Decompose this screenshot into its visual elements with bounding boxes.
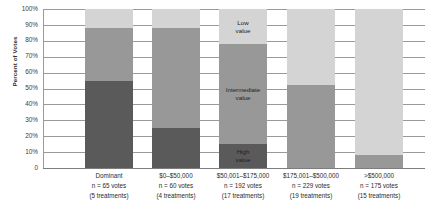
- bar-segment-intermediate-value[interactable]: Intermediate value: [219, 44, 267, 144]
- bar-segment-intermediate-value[interactable]: [287, 85, 335, 168]
- segment-annotation: High value: [236, 148, 251, 164]
- y-axis-tick-labels: 100%90%80%70%60%50%40%30%20%10%0: [0, 9, 38, 168]
- bar-segment-low-value[interactable]: [85, 9, 133, 28]
- bar-segment-high-value[interactable]: High value: [219, 144, 267, 168]
- y-tick-label: 70%: [4, 53, 38, 59]
- bar-segment-intermediate-value[interactable]: [355, 155, 403, 168]
- bar-segment-low-value[interactable]: [152, 9, 200, 28]
- treatments-count: (15 treatments): [334, 191, 424, 201]
- bar-segment-intermediate-value[interactable]: [85, 28, 133, 80]
- segment-annotation: Intermediate value: [226, 86, 260, 102]
- gridline: [43, 168, 425, 169]
- x-axis-category-labels: Dominantn = 65 votes(5 treatments)$0–$50…: [43, 171, 425, 211]
- y-tick-label: 10%: [4, 149, 38, 155]
- bar-3[interactable]: High valueIntermediate valueLow value: [219, 9, 267, 168]
- bar-1[interactable]: [85, 9, 133, 168]
- segment-annotation: Low value: [236, 19, 251, 35]
- bar-segment-high-value[interactable]: [85, 81, 133, 168]
- bar-segment-low-value[interactable]: [287, 9, 335, 85]
- stacked-bar-chart: Percent of Votes 100%90%80%70%60%50%40%3…: [0, 0, 429, 212]
- y-tick-label: 60%: [4, 69, 38, 75]
- y-tick-label: 50%: [4, 85, 38, 91]
- bar-5[interactable]: [355, 9, 403, 168]
- bar-segment-low-value[interactable]: Low value: [219, 9, 267, 44]
- bar-4[interactable]: [287, 9, 335, 168]
- bar-segment-low-value[interactable]: [355, 9, 403, 155]
- bar-2[interactable]: [152, 9, 200, 168]
- y-tick-label: 40%: [4, 101, 38, 107]
- y-tick-label: 20%: [4, 133, 38, 139]
- category-name: >$500,000: [334, 171, 424, 181]
- y-tick-label: 100%: [4, 6, 38, 12]
- bar-segment-high-value[interactable]: [152, 128, 200, 168]
- y-tick-label: 90%: [4, 22, 38, 28]
- y-tick-label: 0: [4, 165, 38, 171]
- y-tick-label: 80%: [4, 37, 38, 43]
- x-label-5: >$500,000n = 175 votes(15 treatments): [334, 171, 424, 200]
- plot-area: High valueIntermediate valueLow value: [43, 9, 425, 168]
- bars-layer: High valueIntermediate valueLow value: [43, 9, 425, 168]
- votes-count: n = 175 votes: [334, 181, 424, 191]
- bar-segment-intermediate-value[interactable]: [152, 28, 200, 128]
- y-tick-label: 30%: [4, 117, 38, 123]
